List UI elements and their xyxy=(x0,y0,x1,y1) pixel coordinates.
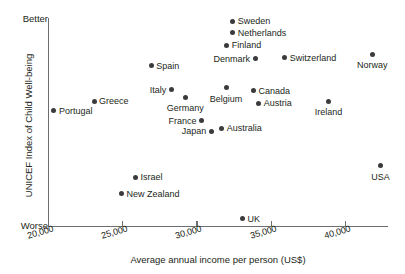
data-point-label: Switzerland xyxy=(290,54,337,63)
data-point[interactable] xyxy=(149,63,154,68)
data-point[interactable] xyxy=(92,99,97,104)
data-point-label: Australia xyxy=(227,124,262,133)
data-point-label: France xyxy=(169,117,197,126)
y-axis-title: UNICEF Index of Child Well-being xyxy=(23,36,34,216)
data-point[interactable] xyxy=(240,216,245,221)
data-point[interactable] xyxy=(169,87,174,92)
data-point-label: Austria xyxy=(264,99,292,108)
data-point-label: New Zealand xyxy=(126,190,179,199)
data-point[interactable] xyxy=(230,30,235,35)
data-point-label: Israel xyxy=(141,173,163,182)
data-point[interactable] xyxy=(133,175,138,180)
data-point[interactable] xyxy=(183,95,188,100)
data-point-label: Germany xyxy=(167,104,204,113)
data-point[interactable] xyxy=(326,99,331,104)
data-point-label: Greece xyxy=(99,97,129,106)
data-point[interactable] xyxy=(224,85,229,90)
data-point[interactable] xyxy=(282,55,287,60)
data-point[interactable] xyxy=(51,108,56,113)
data-point[interactable] xyxy=(256,101,261,106)
data-point[interactable] xyxy=(209,129,214,134)
data-point[interactable] xyxy=(199,118,204,123)
data-point[interactable] xyxy=(370,52,375,57)
data-point-label: Denmark xyxy=(214,55,251,64)
data-point-label: Italy xyxy=(150,86,167,95)
data-point-label: Ireland xyxy=(315,108,343,117)
scatter-chart: Better Worse UNICEF Index of Child Well-… xyxy=(0,0,405,274)
data-point[interactable] xyxy=(224,43,229,48)
data-point-label: Portugal xyxy=(59,107,93,116)
data-point-label: Belgium xyxy=(210,95,243,104)
data-point[interactable] xyxy=(219,126,224,131)
data-point[interactable] xyxy=(230,19,235,24)
data-point-label: Canada xyxy=(259,87,291,96)
data-point-label: UK xyxy=(247,215,260,224)
data-point[interactable] xyxy=(251,88,256,93)
x-axis-title: Average annual income per person (US$) xyxy=(48,254,388,265)
data-point[interactable] xyxy=(119,191,124,196)
data-point[interactable] xyxy=(378,163,383,168)
data-point-label: Sweden xyxy=(238,17,271,26)
data-point-label: Norway xyxy=(357,61,388,70)
data-point-label: USA xyxy=(371,173,390,182)
data-point[interactable] xyxy=(253,56,258,61)
y-axis-top-label: Better xyxy=(23,13,48,24)
data-point-label: Finland xyxy=(232,41,262,50)
data-point-label: Japan xyxy=(182,127,207,136)
data-point-label: Spain xyxy=(156,62,179,71)
y-axis-line xyxy=(48,18,49,227)
data-point-label: Netherlands xyxy=(238,29,287,38)
